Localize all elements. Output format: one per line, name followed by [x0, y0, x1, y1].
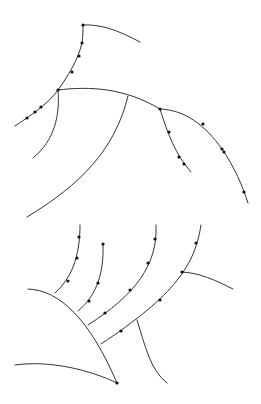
bottom-curve [15, 364, 117, 383]
node-dot [87, 299, 90, 302]
node-dot [167, 130, 170, 133]
right-side-branch [182, 272, 233, 289]
middle-side-branch [160, 109, 191, 172]
node-dot [194, 241, 197, 244]
branching-diagram [0, 0, 261, 404]
top-tree-structure [15, 23, 248, 217]
node-dot [158, 298, 161, 301]
node-dot [25, 116, 28, 119]
node-dot [101, 242, 104, 245]
node-dot [153, 237, 156, 240]
node-dot [81, 23, 84, 26]
node-dot [242, 190, 245, 193]
node-dot [77, 235, 80, 238]
node-dot [77, 54, 80, 57]
node-dot [70, 70, 73, 73]
down-branch [137, 320, 167, 383]
node-dot [128, 288, 131, 291]
node-dot [115, 381, 118, 384]
node-dot [103, 311, 106, 314]
long-descending-branch [27, 96, 128, 217]
node-dot [146, 261, 149, 264]
main-ascending-stem [15, 25, 83, 126]
branch-3 [88, 225, 156, 325]
node-dot [75, 256, 78, 259]
main-horizontal-branch [58, 88, 160, 109]
node-dot [96, 281, 99, 284]
big-arc [28, 289, 117, 383]
bottom-tree-structure [15, 225, 233, 385]
node-dot [201, 122, 204, 125]
short-descending-branch [33, 90, 58, 158]
node-dot [80, 41, 83, 44]
node-dot [180, 270, 183, 273]
node-dot [158, 107, 161, 110]
node-dot [56, 88, 59, 91]
node-dot [220, 147, 223, 150]
node-dot [182, 162, 185, 165]
top-hook [83, 25, 140, 42]
node-dot [222, 150, 225, 153]
branch-4 [101, 225, 201, 344]
node-dot [119, 329, 122, 332]
node-dot [66, 279, 69, 282]
node-dot [33, 110, 36, 113]
node-dot [177, 155, 180, 158]
node-dot [39, 105, 42, 108]
